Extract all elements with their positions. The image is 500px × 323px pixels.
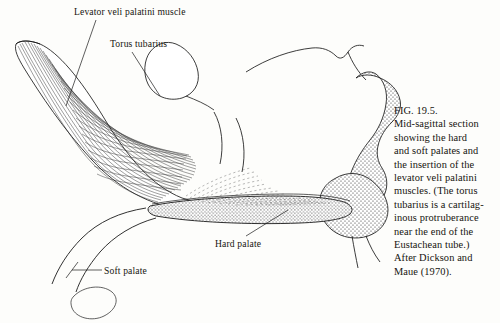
caption-line: tubarius is a cartilag- (394, 198, 498, 211)
torus-tubarius (145, 42, 214, 110)
label-hard-palate: Hard palate (215, 238, 261, 249)
nasal-cavity-outline (246, 45, 366, 80)
figure-caption: FIG. 19.5. Mid-sagittal section showing … (394, 104, 498, 278)
soft-palate (52, 208, 156, 292)
label-soft-palate: Soft palate (104, 265, 147, 276)
caption-line: Eustachean tube.) (394, 238, 498, 251)
caption-line: Mid-sagittal section (394, 117, 498, 130)
label-levator-veli-palatini-muscle: Levator veli palatini muscle (74, 6, 186, 17)
pharyngeal-wall (214, 112, 244, 172)
label-torus-tubarius: Torus tubarius (110, 38, 167, 49)
caption-line: inous protruberance (394, 211, 498, 224)
caption-line: near the end of the (394, 225, 498, 238)
caption-line: the insertion of the (394, 158, 498, 171)
lower-oval-structure (71, 287, 116, 319)
caption-line: Maue (1970). (394, 265, 498, 278)
figure-19-5: Levator veli palatini muscle Torus tubar… (0, 0, 500, 323)
caption-line: and soft palates and (394, 144, 498, 157)
caption-line: showing the hard (394, 131, 498, 144)
caption-line: muscles. (The torus (394, 184, 498, 197)
caption-line: FIG. 19.5. (394, 104, 498, 117)
caption-line: After Dickson and (394, 251, 498, 264)
caption-line: levator veli palatini (394, 171, 498, 184)
